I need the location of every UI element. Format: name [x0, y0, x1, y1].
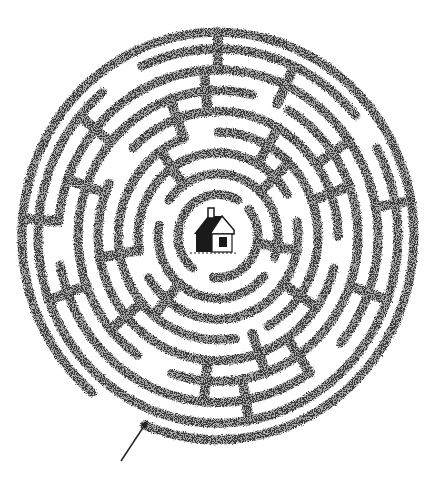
connector-wall-9: [100, 250, 139, 257]
house-window: [219, 237, 227, 247]
connector-wall-20: [376, 201, 411, 208]
connector-wall-1: [204, 70, 207, 111]
house-chimney: [208, 208, 214, 218]
connector-wall-8: [23, 218, 59, 221]
house-front-wall: [196, 234, 212, 252]
connector-wall-19: [257, 243, 296, 250]
connector-wall-14: [242, 379, 249, 420]
maze-canvas[interactable]: [0, 0, 435, 488]
connector-wall-13: [204, 360, 207, 401]
